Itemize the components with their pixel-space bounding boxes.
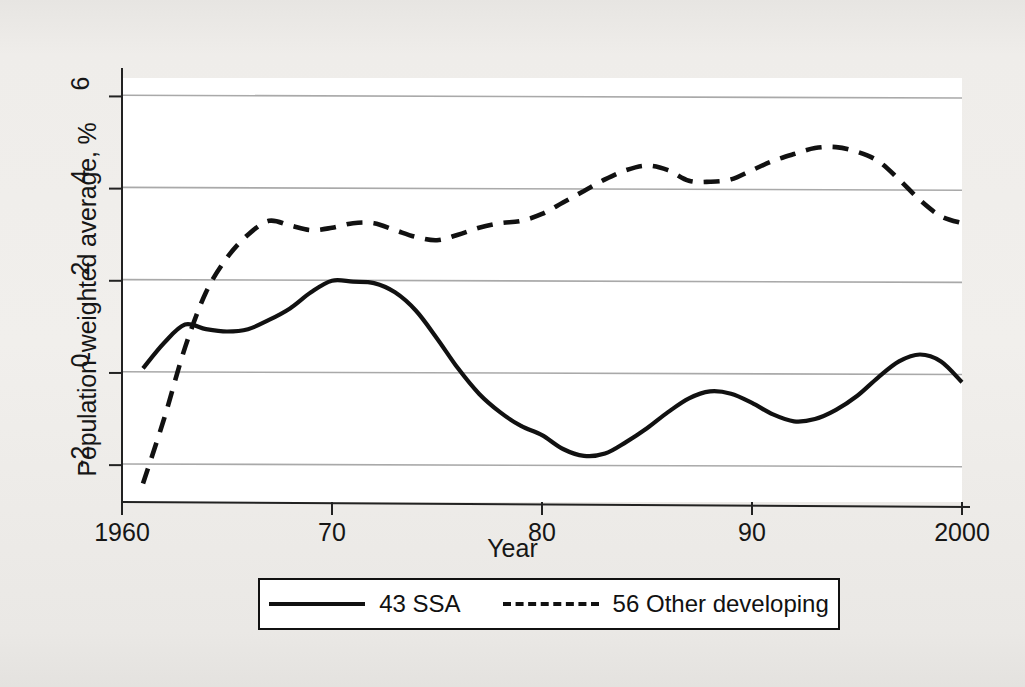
legend-line-dashed-icon [503, 602, 599, 606]
y-tick-label: 0 [66, 353, 95, 393]
x-tick-label: 1960 [72, 518, 172, 547]
legend-item-43-ssa: 43 SSA [269, 590, 460, 618]
series-43-ssa [143, 280, 962, 456]
legend-label-56-other-developing: 56 Other developing [613, 590, 829, 618]
y-tick-label: -2 [66, 446, 95, 486]
legend-label-43-ssa: 43 SSA [379, 590, 460, 618]
x-tick-label: 2000 [912, 518, 1012, 547]
chart-legend: 43 SSA 56 Other developing [258, 578, 840, 630]
series-56-other-developing [143, 147, 962, 484]
legend-line-solid-icon [269, 602, 365, 606]
x-tick-label: 80 [492, 518, 592, 547]
y-tick-label: 4 [66, 169, 95, 209]
x-tick-label: 90 [702, 518, 802, 547]
series-lines [143, 147, 962, 484]
axes [109, 68, 970, 515]
figure-container: Population-weighted average, % Year -202… [0, 0, 1025, 687]
y-tick-label: 6 [66, 77, 95, 117]
legend-item-56-other-developing: 56 Other developing [503, 590, 829, 618]
y-tick-label: 2 [66, 261, 95, 301]
x-tick-label: 70 [282, 518, 382, 547]
